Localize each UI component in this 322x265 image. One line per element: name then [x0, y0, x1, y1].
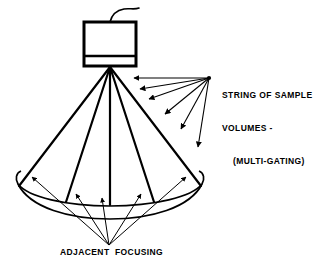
beam-ray-5: [110, 67, 201, 186]
beam-ray-4: [110, 67, 154, 202]
beam-ray-1: [19, 67, 110, 186]
figure-canvas: STRING OF SAMPLE VOLUMES - (MULTI-GATING…: [0, 0, 322, 265]
label-line-1: STRING OF SAMPLE: [222, 90, 312, 101]
label-line-3: (MULTI-GATING): [222, 156, 312, 167]
gating-arrow-2: [140, 78, 209, 89]
gating-arrow-3: [149, 78, 209, 99]
gating-origin-node: [207, 76, 211, 80]
label-string-of-sample-volumes: STRING OF SAMPLE VOLUMES - (MULTI-GATING…: [222, 68, 312, 189]
cone-rim-left-cap: [16, 171, 21, 184]
label-adjacent-focusing: ADJACENT FOCUSING: [60, 247, 163, 258]
wavy-cable: [110, 8, 139, 22]
beam-cone-rays: [19, 67, 201, 205]
focus-arrow-3: [102, 198, 109, 245]
transducer-housing: [84, 22, 136, 66]
cone-rim-right-cap: [199, 171, 204, 184]
gating-arrow-4: [165, 78, 209, 114]
label-line-2: VOLUMES -: [222, 123, 312, 134]
beam-ray-2: [66, 67, 110, 202]
focus-arrow-5: [109, 177, 186, 245]
